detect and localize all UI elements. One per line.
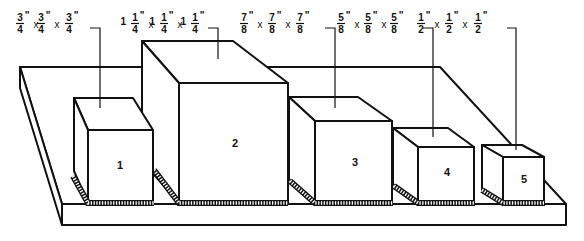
dimension-denominator: 8 — [391, 24, 397, 35]
cube-4 — [393, 128, 475, 203]
dimension-numerator: 7 — [269, 12, 275, 23]
dimension-numerator: 5 — [391, 12, 397, 23]
cube-3-label: 3 — [352, 156, 358, 168]
dimension-labels: 34"x34"x34"114"x114"x114"78"x78"x78"58"x… — [16, 10, 488, 35]
dimension-denominator: 8 — [365, 24, 371, 35]
welding-diagram: 1 2 3 4 5 34"x34"x34"114"x114"x114"78"x7… — [0, 0, 584, 241]
dimension-denominator: 8 — [241, 24, 247, 35]
dimension-denominator: 2 — [418, 24, 424, 35]
inch-mark: " — [399, 10, 404, 21]
inch-mark: " — [169, 10, 174, 21]
dimension-numerator: 1 — [418, 12, 424, 23]
dimension-denominator: 4 — [38, 24, 44, 35]
inch-mark: " — [74, 10, 79, 21]
inch-mark: " — [454, 10, 459, 21]
cube-3 — [289, 97, 393, 203]
dimension-label-4: 58"x58"x58" — [337, 10, 404, 35]
cube-2-label: 2 — [232, 137, 238, 149]
cube-2 — [142, 41, 288, 203]
cube-5-label: 5 — [521, 173, 527, 185]
inch-mark: " — [200, 10, 205, 21]
times-symbol: x — [55, 19, 60, 30]
dimension-whole: 1 — [120, 16, 126, 27]
dimension-denominator: 4 — [161, 24, 167, 35]
dimension-numerator: 1 — [161, 12, 167, 23]
inch-mark: " — [483, 10, 488, 21]
base-plate-front-edge — [62, 204, 566, 225]
times-symbol: x — [382, 19, 387, 30]
cube-5 — [482, 145, 545, 203]
dimension-numerator: 1 — [132, 12, 138, 23]
dimension-numerator: 3 — [38, 12, 44, 23]
cube-4-label: 4 — [444, 166, 451, 178]
dimension-denominator: 4 — [132, 24, 138, 35]
times-symbol: x — [463, 19, 468, 30]
inch-mark: " — [140, 10, 145, 21]
times-symbol: x — [286, 19, 291, 30]
dimension-numerator: 7 — [297, 12, 303, 23]
dimension-denominator: 4 — [192, 24, 198, 35]
dimension-whole: 1 — [180, 16, 186, 27]
dimension-numerator: 3 — [17, 12, 23, 23]
times-symbol: x — [258, 19, 263, 30]
inch-mark: " — [426, 10, 431, 21]
dimension-denominator: 4 — [66, 24, 72, 35]
dimension-label-5: 12"x12"x12" — [417, 10, 488, 35]
cube-1-label: 1 — [117, 159, 123, 171]
dimension-numerator: 1 — [192, 12, 198, 23]
inch-mark: " — [249, 10, 254, 21]
leader-line-5 — [507, 28, 516, 150]
inch-mark: " — [46, 10, 51, 21]
inch-mark: " — [305, 10, 310, 21]
dimension-denominator: 2 — [475, 24, 481, 35]
inch-mark: " — [373, 10, 378, 21]
dimension-denominator: 4 — [17, 24, 23, 35]
dimension-numerator: 5 — [338, 12, 344, 23]
inch-mark: " — [277, 10, 282, 21]
dimension-numerator: 5 — [365, 12, 371, 23]
dimension-denominator: 2 — [446, 24, 452, 35]
dimension-denominator: 8 — [297, 24, 303, 35]
dimension-label-3: 78"x78"x78" — [240, 10, 310, 35]
dimension-numerator: 1 — [446, 12, 452, 23]
inch-mark: " — [346, 10, 351, 21]
inch-mark: " — [25, 10, 30, 21]
dimension-numerator: 3 — [66, 12, 72, 23]
dimension-label-2: 114"x114"x114" — [120, 10, 204, 35]
times-symbol: x — [355, 19, 360, 30]
dimension-numerator: 1 — [475, 12, 481, 23]
dimension-denominator: 8 — [338, 24, 344, 35]
dimension-denominator: 8 — [269, 24, 275, 35]
dimension-label-1: 34"x34"x34" — [16, 10, 79, 35]
dimension-numerator: 7 — [241, 12, 247, 23]
times-symbol: x — [435, 19, 440, 30]
dimension-whole: 1 — [149, 16, 155, 27]
cube-1 — [73, 98, 154, 203]
